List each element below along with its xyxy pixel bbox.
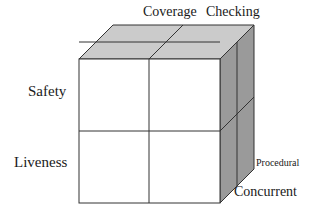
axis-label-procedural: Procedural (256, 158, 299, 168)
axis-label-safety: Safety (28, 84, 66, 99)
axis-label-checking: Checking (206, 5, 260, 19)
cube-diagram: Coverage Checking Safety Liveness Proced… (0, 0, 325, 217)
axis-label-concurrent: Concurrent (234, 185, 297, 199)
axis-label-coverage: Coverage (143, 5, 197, 19)
axis-label-liveness: Liveness (14, 155, 67, 170)
